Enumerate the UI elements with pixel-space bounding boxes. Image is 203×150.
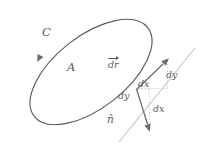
dy-upper-label: dy — [166, 70, 177, 80]
dx-upper-label: dx — [138, 79, 149, 89]
normal-vector-arrowhead — [144, 124, 152, 133]
displacement-vector-label-text: dr — [108, 59, 119, 70]
normal-vector-label: n̂ — [107, 114, 114, 125]
tangent-line — [119, 48, 195, 142]
curve-direction-arrowhead — [34, 54, 43, 63]
closed-curve-C — [12, 0, 170, 145]
curve-label-c: C — [42, 27, 51, 39]
figure-canvas: C A dr dy dx dy dx n̂ — [0, 0, 203, 150]
displacement-vector-label: dr — [108, 59, 119, 70]
dy-lower-label: dy — [118, 91, 129, 101]
dx-lower-label: dx — [153, 104, 164, 114]
area-label-a: A — [67, 62, 75, 74]
